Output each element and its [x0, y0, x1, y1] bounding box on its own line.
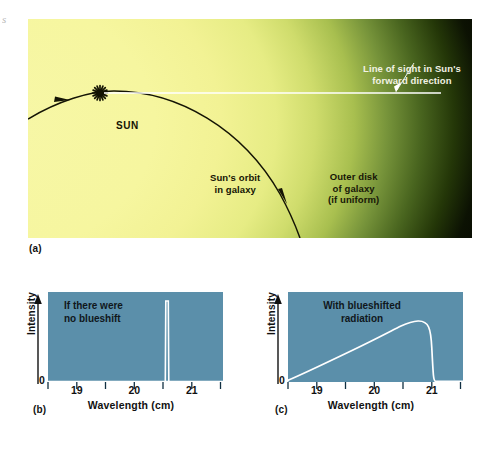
chart-c-tick-label-19: 19 [302, 384, 332, 396]
part-label-a: (a) [29, 243, 42, 254]
outer-disk-label: Outer disk of galaxy (if uniform) [328, 171, 379, 206]
chart-c-tick-label-20: 20 [359, 384, 389, 396]
line-of-sight-label-line2: forward direction [372, 75, 451, 86]
outer-disk-label-line3: (if uniform) [328, 194, 379, 205]
chart-c-caption-line1: With blueshifted [323, 300, 401, 311]
chart-c-zero-label: 0 [279, 374, 285, 386]
chart-with-blueshift: With blueshifted radiation 0 Intensity W… [258, 286, 483, 416]
page-margin-artifact: s [2, 9, 14, 29]
part-label-b: (b) [33, 404, 46, 415]
chart-c-y-axis-title: Intensity [266, 279, 277, 349]
part-label-c: (c) [275, 404, 288, 415]
chart-no-blueshift: If there were no blueshift 0 Intensity W… [18, 286, 243, 416]
chart-b-caption-line2: no blueshift [64, 313, 121, 324]
orbit-arrowhead-left [54, 97, 70, 103]
sun-orbit-path [28, 91, 300, 238]
chart-b-y-axis-title: Intensity [26, 279, 37, 349]
sun-orbit-label-line2: in galaxy [214, 184, 256, 195]
chart-b-graphics [18, 286, 243, 396]
chart-c-caption-line2: radiation [341, 313, 383, 324]
chart-b-zero-label: 0 [39, 374, 45, 386]
outer-disk-label-line1: Outer disk [330, 171, 378, 182]
galaxy-diagram-graphics [28, 19, 472, 238]
outer-disk-label-line2: of galaxy [333, 183, 375, 194]
line-of-sight-label: Line of sight in Sun's forward direction [363, 63, 461, 86]
chart-b-caption-line1: If there were [64, 300, 123, 311]
chart-c-x-axis-title: Wavelength (cm) [276, 399, 466, 411]
line-of-sight-label-line1: Line of sight in Sun's [363, 63, 461, 74]
chart-c-tick-label-21: 21 [417, 384, 447, 396]
chart-b-tick-label-21: 21 [177, 384, 207, 396]
sun-orbit-label: Sun's orbit in galaxy [210, 172, 260, 195]
chart-b-tick-label-20: 20 [119, 384, 149, 396]
orbit-arrowhead-lower [278, 188, 287, 204]
sun-orbit-label-line1: Sun's orbit [210, 172, 260, 183]
chart-b-tick-label-19: 19 [62, 384, 92, 396]
chart-b-caption: If there were no blueshift [64, 299, 123, 325]
chart-b-x-axis-title: Wavelength (cm) [36, 399, 226, 411]
chart-c-caption: With blueshifted radiation [302, 299, 422, 325]
sun-label: SUN [116, 120, 139, 132]
galaxy-diagram-panel: SUN Sun's orbit in galaxy Outer disk of … [28, 19, 472, 238]
